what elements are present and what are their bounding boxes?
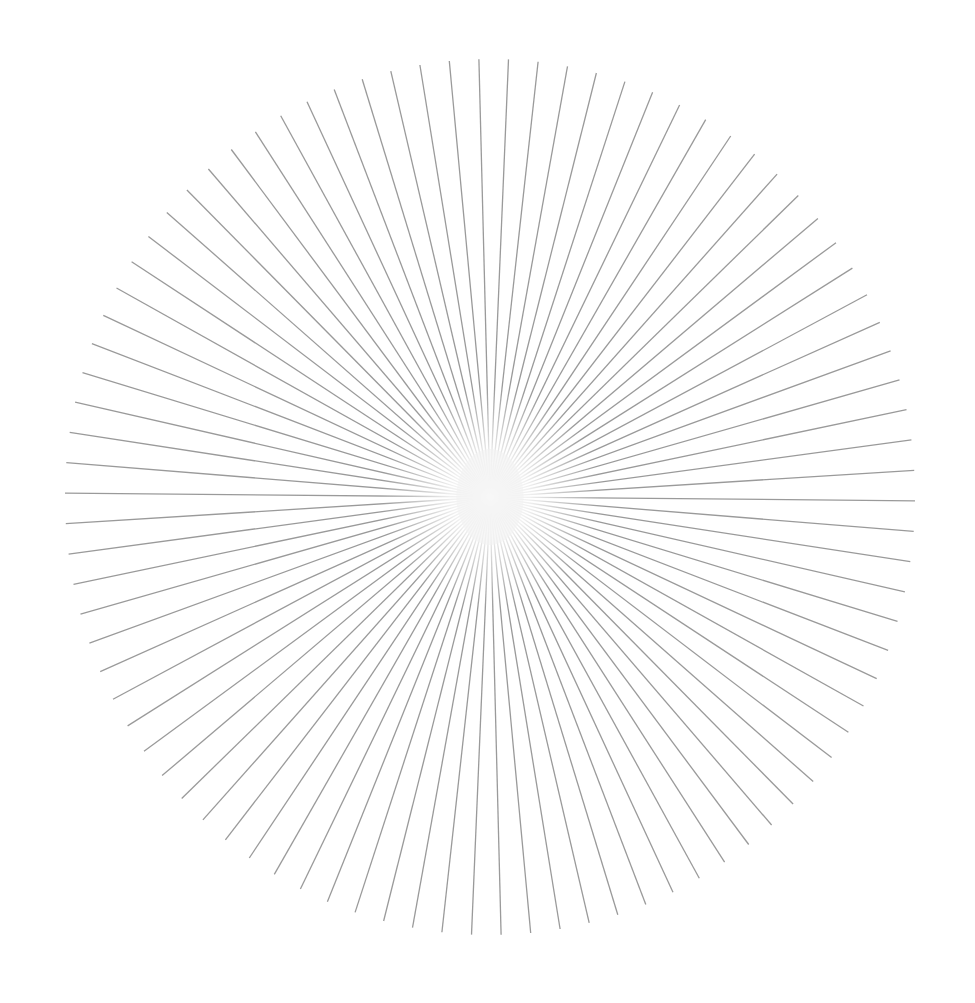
starburst-figure — [0, 0, 975, 1003]
center-glow — [456, 449, 523, 545]
radial-lines-svg — [0, 0, 975, 1003]
